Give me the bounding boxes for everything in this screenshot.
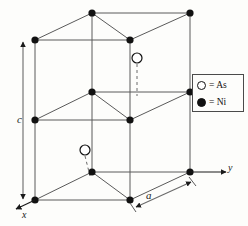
as-atoms [80, 53, 142, 155]
a-dimension-arrow [136, 182, 191, 207]
legend-item-ni: = Ni [197, 94, 226, 110]
legend-label-ni: = Ni [209, 97, 226, 107]
x-axis [16, 200, 35, 209]
ni-atom [31, 36, 38, 43]
ni-atom [88, 168, 95, 175]
ni-atom [126, 36, 133, 43]
ni-atom [88, 88, 95, 95]
y-axis-label: y [228, 163, 232, 173]
ni-atom [88, 9, 95, 16]
a-dimension-label: a [146, 190, 152, 201]
filled-circle-icon [197, 98, 206, 107]
ni-atom [31, 116, 38, 123]
legend-box: = As = Ni [192, 74, 244, 112]
c-dimension-label: c [17, 114, 22, 125]
as-atom [132, 53, 142, 63]
open-circle-icon [197, 81, 206, 90]
ni-atom [126, 116, 133, 123]
legend-item-as: = As [197, 77, 227, 93]
ni-atom [186, 9, 193, 16]
as-atom [80, 145, 90, 155]
ni-atom [126, 196, 133, 203]
x-axis-label: x [22, 210, 26, 220]
crystal-structure-figure [0, 0, 248, 226]
cell-edges [35, 13, 190, 200]
legend-label-as: = As [209, 80, 227, 90]
